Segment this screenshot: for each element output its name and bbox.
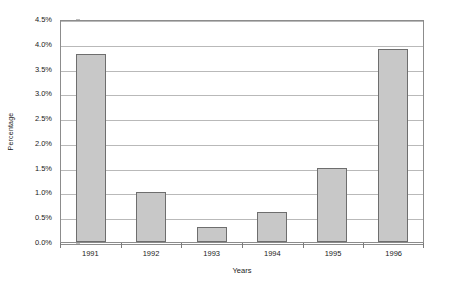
y-axis-tick-label: 3.5% <box>35 66 52 74</box>
x-axis-tick-mark <box>121 243 122 248</box>
x-axis-tick-mark <box>363 243 364 248</box>
y-axis-tick-label: 3.0% <box>35 91 52 99</box>
x-axis-tick-label: 1994 <box>242 250 303 262</box>
bar-slot <box>242 21 302 242</box>
bar-1996[interactable] <box>378 49 408 242</box>
bar-1994[interactable] <box>257 212 287 242</box>
y-axis-tick-label: 0.5% <box>35 214 52 222</box>
bar-slot <box>363 21 423 242</box>
y-axis-tick-label: 4.5% <box>35 16 52 24</box>
bar-1993[interactable] <box>197 227 227 242</box>
bar-slot <box>302 21 362 242</box>
bar-1995[interactable] <box>317 168 347 242</box>
x-axis-tick-marks <box>60 243 424 249</box>
x-axis-tick-label: 1996 <box>363 250 424 262</box>
x-axis-tick-mark <box>181 243 182 248</box>
y-axis-tick-label: 0.0% <box>35 239 52 247</box>
bar-slot <box>121 21 181 242</box>
x-axis-tick-mark <box>303 243 304 248</box>
bar-slot <box>61 21 121 242</box>
y-axis-title-text: Percentage <box>8 113 15 151</box>
y-axis-tick-label: 2.5% <box>35 115 52 123</box>
bar-chart: Percentage 0.0%0.5%1.0%1.5%2.0%2.5%3.0%3… <box>0 0 460 283</box>
y-axis-tick-label: 1.5% <box>35 165 52 173</box>
y-axis-tick-labels: 0.0%0.5%1.0%1.5%2.0%2.5%3.0%3.5%4.0%4.5% <box>20 20 56 243</box>
x-axis-tick-labels: 199119921993199419951996 <box>60 250 424 262</box>
x-axis-tick-label: 1993 <box>181 250 242 262</box>
x-axis-tick-label: 1991 <box>60 250 121 262</box>
x-axis-tick-mark <box>242 243 243 248</box>
y-axis-title: Percentage <box>0 0 22 263</box>
x-axis-tick-mark <box>60 243 61 248</box>
plot-area <box>60 20 424 243</box>
x-axis-tick-label: 1992 <box>121 250 182 262</box>
x-axis-title: Years <box>60 266 424 275</box>
bar-slot <box>182 21 242 242</box>
y-axis-tick-label: 4.0% <box>35 41 52 49</box>
x-axis-tick-label: 1995 <box>303 250 364 262</box>
y-axis-tick-label: 2.0% <box>35 140 52 148</box>
y-axis-tick-label: 1.0% <box>35 190 52 198</box>
bar-1992[interactable] <box>136 192 166 242</box>
bars-layer <box>61 21 423 242</box>
x-axis-tick-mark-end <box>423 243 424 248</box>
bar-1991[interactable] <box>76 54 106 242</box>
